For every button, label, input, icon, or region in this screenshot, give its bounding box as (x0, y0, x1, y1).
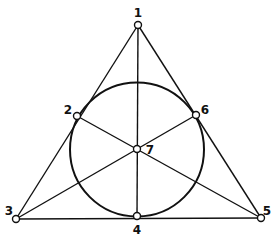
point-1 (135, 22, 142, 29)
label-3: 3 (5, 204, 13, 218)
label-1: 1 (134, 6, 142, 20)
label-4: 4 (133, 223, 141, 237)
line-1-6-5 (138, 25, 261, 218)
label-2: 2 (64, 103, 72, 117)
point-2 (74, 113, 81, 120)
label-6: 6 (201, 103, 209, 117)
label-7: 7 (146, 143, 154, 157)
point-4 (134, 213, 141, 220)
fano-plane-diagram: 1 2 3 4 5 6 7 (0, 0, 276, 239)
point-6 (193, 112, 200, 119)
line-1-7-4 (137, 25, 138, 216)
point-7 (134, 146, 141, 153)
point-3 (13, 216, 20, 223)
label-5: 5 (263, 204, 271, 218)
